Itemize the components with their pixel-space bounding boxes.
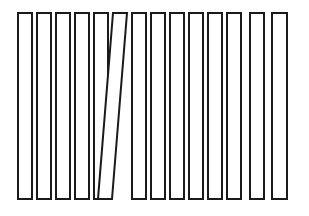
bar xyxy=(132,13,146,199)
bar xyxy=(208,13,222,199)
bar xyxy=(18,13,32,199)
bar xyxy=(272,13,287,199)
bar xyxy=(227,13,241,199)
bar xyxy=(75,13,89,199)
bar xyxy=(250,13,264,199)
bar xyxy=(151,13,165,199)
figure-canvas xyxy=(0,0,309,216)
bar xyxy=(170,13,184,199)
bars-diagram xyxy=(0,0,309,216)
bar xyxy=(56,13,70,199)
bar xyxy=(189,13,203,199)
bar xyxy=(37,13,51,199)
